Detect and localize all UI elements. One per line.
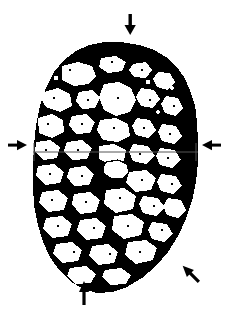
inner-lesion-marker xyxy=(103,160,129,179)
figure-root: radiographic appearance of the fractured… xyxy=(0,0,228,310)
specimen-image xyxy=(0,0,228,310)
